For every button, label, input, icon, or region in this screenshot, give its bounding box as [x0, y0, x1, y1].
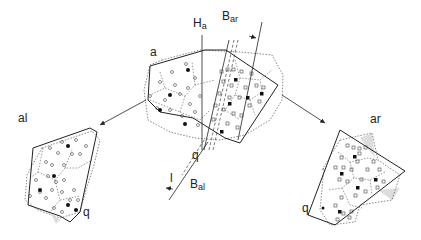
partition-diagram — [0, 0, 421, 240]
label-H-a: Ha — [193, 17, 207, 32]
label-B-ar: Bar — [222, 10, 238, 25]
arrow-to-al — [100, 100, 146, 125]
subregion-ar — [308, 130, 405, 225]
label-ar: ar — [370, 113, 381, 125]
label-q-right: q — [302, 202, 309, 214]
al-points — [29, 139, 88, 214]
arrow-B-ar — [249, 36, 256, 38]
label-B-al-sub: al — [198, 182, 205, 192]
line-B-ar — [238, 22, 262, 140]
ar-points — [334, 144, 385, 221]
label-B-ar-main: B — [222, 9, 230, 23]
region-a-boundary — [148, 50, 278, 143]
label-q-left: q — [83, 206, 90, 218]
label-B-al-main: B — [190, 177, 198, 191]
center-region — [144, 22, 283, 200]
ar-boundary — [308, 130, 405, 225]
arrow-B-al — [166, 188, 173, 189]
label-B-ar-sub: ar — [230, 14, 238, 24]
label-H: H — [193, 16, 202, 30]
label-B-al: Bal — [190, 178, 205, 193]
label-q-center: q — [192, 149, 199, 161]
label-H-sub: a — [202, 21, 207, 31]
label-l: l — [170, 172, 173, 184]
al-filled-points — [38, 144, 78, 212]
arrow-to-ar — [282, 95, 325, 123]
label-al: al — [18, 112, 27, 124]
label-a: a — [150, 46, 157, 58]
left-filled-points — [158, 68, 190, 126]
ar-filled-points — [322, 155, 378, 214]
